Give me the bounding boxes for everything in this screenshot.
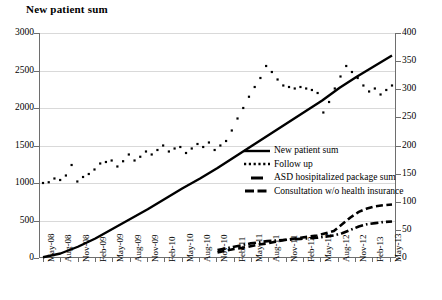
data-point-follow-up bbox=[179, 146, 181, 148]
data-point-follow-up bbox=[265, 65, 267, 67]
data-point-follow-up bbox=[82, 176, 84, 178]
y-left-tick-label: 0 bbox=[0, 253, 34, 262]
data-point-follow-up bbox=[351, 71, 353, 73]
data-point-follow-up bbox=[339, 75, 341, 77]
data-point-follow-up bbox=[145, 150, 147, 152]
data-point-follow-up bbox=[139, 156, 141, 158]
data-point-follow-up bbox=[242, 107, 244, 109]
legend-item[interactable]: Follow up bbox=[243, 158, 404, 172]
x-tick-mark bbox=[78, 258, 79, 262]
data-point-follow-up bbox=[42, 182, 44, 184]
data-point-follow-up bbox=[48, 181, 50, 183]
data-point-follow-up bbox=[391, 84, 393, 86]
chart-container: New patient sum 050010001500200025003000… bbox=[0, 0, 442, 300]
data-point-follow-up bbox=[93, 168, 95, 170]
legend-item[interactable]: ASD hosipitalized package sum bbox=[243, 171, 404, 185]
data-point-follow-up bbox=[105, 161, 107, 163]
data-point-follow-up bbox=[357, 77, 359, 79]
data-point-follow-up bbox=[299, 86, 301, 88]
data-point-follow-up bbox=[202, 146, 204, 148]
data-point-follow-up bbox=[111, 159, 113, 161]
data-point-follow-up bbox=[311, 89, 313, 91]
data-point-follow-up bbox=[271, 71, 273, 73]
data-point-follow-up bbox=[294, 87, 296, 89]
y-right-tick-label: 0 bbox=[402, 253, 436, 262]
legend-marker-dotted-line bbox=[243, 158, 271, 170]
legend-marker-dash-dot-line bbox=[243, 185, 271, 197]
data-point-follow-up bbox=[288, 86, 290, 88]
x-tick-mark bbox=[355, 258, 356, 262]
data-point-follow-up bbox=[231, 129, 233, 131]
data-point-follow-up bbox=[254, 86, 256, 88]
x-tick-mark bbox=[60, 258, 61, 262]
x-tick-mark bbox=[43, 258, 44, 262]
data-point-follow-up bbox=[116, 165, 118, 167]
data-point-follow-up bbox=[65, 174, 67, 176]
x-tick-mark bbox=[234, 258, 235, 262]
y-left-tick-label: 2000 bbox=[0, 103, 34, 112]
y-right-tick-label: 300 bbox=[402, 84, 436, 93]
legend-item[interactable]: Consultation w/o health insurance bbox=[243, 185, 404, 199]
y-left-tick-label: 2500 bbox=[0, 66, 34, 75]
data-point-follow-up bbox=[385, 89, 387, 91]
data-point-follow-up bbox=[162, 144, 164, 146]
data-point-follow-up bbox=[53, 177, 55, 179]
x-tick-mark bbox=[303, 258, 304, 262]
data-point-follow-up bbox=[191, 147, 193, 149]
data-point-follow-up bbox=[362, 84, 364, 86]
legend-label: Follow up bbox=[274, 158, 313, 172]
y-right-tick-mark bbox=[396, 230, 401, 231]
y-right-tick-label: 100 bbox=[402, 197, 436, 206]
series-consultation-no-insurance bbox=[218, 221, 393, 250]
x-tick-mark bbox=[372, 258, 373, 262]
x-tick-mark bbox=[182, 258, 183, 262]
data-point-follow-up bbox=[99, 162, 101, 164]
data-point-follow-up bbox=[76, 180, 78, 182]
y-right-tick-label: 200 bbox=[402, 141, 436, 150]
data-point-follow-up bbox=[128, 153, 130, 155]
data-point-follow-up bbox=[133, 159, 135, 161]
y-right-tick-mark bbox=[396, 202, 401, 203]
y-right-tick-label: 50 bbox=[402, 225, 436, 234]
data-point-follow-up bbox=[328, 101, 330, 103]
legend-label: ASD hosipitalized package sum bbox=[274, 171, 396, 185]
data-point-follow-up bbox=[259, 77, 261, 79]
data-point-follow-up bbox=[122, 160, 124, 162]
y-left-tick-label: 3000 bbox=[0, 28, 34, 37]
data-point-follow-up bbox=[168, 150, 170, 152]
data-point-follow-up bbox=[248, 96, 250, 98]
x-tick-mark bbox=[112, 258, 113, 262]
data-point-follow-up bbox=[276, 78, 278, 80]
y-left-tick-mark bbox=[34, 258, 39, 259]
x-tick-mark bbox=[390, 258, 391, 262]
y-right-tick-mark bbox=[396, 33, 401, 34]
data-point-follow-up bbox=[374, 87, 376, 89]
x-tick-mark bbox=[199, 258, 200, 262]
data-point-follow-up bbox=[59, 179, 61, 181]
data-point-follow-up bbox=[379, 93, 381, 95]
legend-marker-solid-line bbox=[243, 145, 271, 157]
y-right-tick-mark bbox=[396, 61, 401, 62]
x-tick-mark bbox=[251, 258, 252, 262]
x-tick-mark bbox=[95, 258, 96, 262]
x-tick-mark bbox=[286, 258, 287, 262]
y-left-tick-label: 1500 bbox=[0, 141, 34, 150]
x-tick-mark bbox=[268, 258, 269, 262]
data-point-follow-up bbox=[71, 164, 73, 166]
chart-legend: New patient sumFollow upASD hosipitalize… bbox=[243, 144, 404, 198]
x-tick-mark bbox=[164, 258, 165, 262]
y-right-tick-label: 250 bbox=[402, 112, 436, 121]
data-point-follow-up bbox=[322, 111, 324, 113]
data-point-follow-up bbox=[214, 149, 216, 151]
data-point-follow-up bbox=[196, 143, 198, 145]
data-point-follow-up bbox=[368, 90, 370, 92]
data-point-follow-up bbox=[151, 153, 153, 155]
y-right-tick-mark bbox=[396, 117, 401, 118]
chart-title: New patient sum bbox=[26, 3, 108, 15]
y-right-tick-mark bbox=[396, 89, 401, 90]
legend-item[interactable]: New patient sum bbox=[243, 144, 404, 158]
data-point-follow-up bbox=[225, 140, 227, 142]
data-point-follow-up bbox=[305, 87, 307, 89]
data-point-follow-up bbox=[236, 117, 238, 119]
x-tick-mark bbox=[130, 258, 131, 262]
